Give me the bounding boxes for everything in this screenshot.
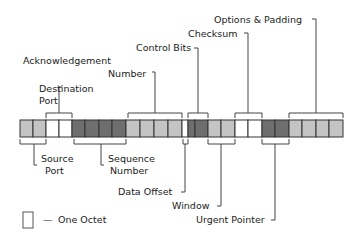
tcp-header-diagram: Destination Port Acknowledgement Number … <box>0 0 357 240</box>
octet-window-2 <box>221 120 235 137</box>
octet-sequence-number-3 <box>99 120 112 137</box>
label-urgent-pointer: Urgent Pointer <box>196 214 265 225</box>
octet-destination-port-2 <box>59 120 72 137</box>
label-acknowledgement-number-1: Acknowledgement <box>23 55 111 66</box>
octet-sequence-number-2 <box>85 120 99 137</box>
label-source-port-1: Source <box>41 153 74 164</box>
octet-options-1 <box>289 120 302 137</box>
octet-checksum-2 <box>248 120 262 137</box>
label-control-bits: Control Bits <box>136 42 191 53</box>
label-source-port-2: Port <box>45 165 64 176</box>
octet-options-4 <box>329 120 343 137</box>
octet-ack-number-3 <box>154 120 168 137</box>
label-window: Window <box>172 200 210 211</box>
label-sequence-number-1: Sequence <box>108 153 155 164</box>
octet-control-bits-2 <box>195 120 208 137</box>
bracket-options-padding <box>289 19 343 118</box>
label-data-offset: Data Offset <box>118 186 173 197</box>
bracket-data-offset <box>181 139 188 192</box>
label-acknowledgement-number-2: Number <box>108 68 146 79</box>
legend: — One Octet <box>23 212 107 228</box>
octet-ack-number-1 <box>126 120 140 137</box>
label-destination-port-2: Port <box>39 95 58 106</box>
octet-sequence-number-4 <box>112 120 126 137</box>
bracket-window <box>208 139 235 206</box>
label-options-padding: Options & Padding <box>214 14 302 25</box>
legend-octet-box-icon <box>23 212 33 228</box>
octet-source-port-2 <box>33 120 46 137</box>
label-destination-port-1: Destination <box>39 83 94 94</box>
octet-window-1 <box>208 120 221 137</box>
label-checksum: Checksum <box>188 28 237 39</box>
octet-control-bits-1 <box>188 120 195 137</box>
octet-ack-number-2 <box>140 120 154 137</box>
legend-dash: — <box>43 214 53 225</box>
bracket-checksum <box>235 33 262 118</box>
bracket-control-bits <box>188 48 208 118</box>
octet-urgent-pointer-2 <box>275 120 289 137</box>
octet-data-offset <box>182 120 188 137</box>
label-sequence-number-2: Number <box>110 165 148 176</box>
legend-text: One Octet <box>58 214 107 225</box>
octet-options-3 <box>316 120 329 137</box>
octet-sequence-number-1 <box>72 120 85 137</box>
bracket-urgent-pointer <box>262 139 289 220</box>
octet-options-2 <box>302 120 316 137</box>
octet-source-port-1 <box>20 120 33 137</box>
octet-urgent-pointer-1 <box>262 120 275 137</box>
octet-destination-port-1 <box>46 120 59 137</box>
octet-checksum-1 <box>235 120 248 137</box>
octet-ack-number-4 <box>168 120 182 137</box>
octet-bar <box>20 120 343 137</box>
